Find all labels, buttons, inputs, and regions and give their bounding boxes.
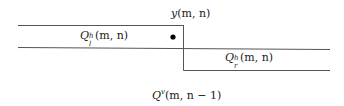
label-q-right-sub: r xyxy=(234,63,237,70)
label-q-right-args: (m, n) xyxy=(240,51,273,64)
label-q-left-base: Q xyxy=(80,29,89,42)
label-q-left-sub: l xyxy=(89,41,91,48)
label-q-vertical-args: (m, n − 1) xyxy=(165,89,221,102)
middle-boundary-line xyxy=(18,48,330,50)
label-q-left: Qhl(m, n) xyxy=(80,30,128,41)
label-q-left-args: (m, n) xyxy=(95,29,128,42)
label-q-vertical-base: Q xyxy=(152,89,161,102)
label-y-args: (m, n) xyxy=(177,7,210,20)
label-q-right-base: Q xyxy=(225,51,234,64)
label-q-right-sup: h xyxy=(234,55,239,62)
label-q-right: Qhr(m, n) xyxy=(225,52,273,63)
label-q-vertical: Qv(m, n − 1) xyxy=(152,90,221,101)
label-q-left-sup: h xyxy=(89,33,94,40)
label-y: y(m, n) xyxy=(171,8,210,19)
pixel-dot xyxy=(170,34,175,39)
